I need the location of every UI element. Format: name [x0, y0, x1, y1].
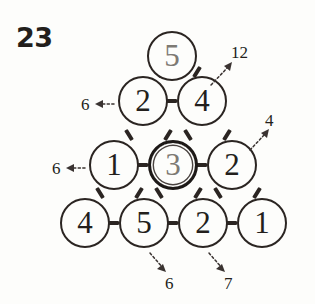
puzzle-figure: 23 5 2 4 1 3 2 4 5	[0, 0, 315, 304]
annotation-sum-7-bottom: 7	[0, 0, 315, 304]
annotation-label: 7	[224, 275, 233, 292]
arrow-down-right-icon	[0, 0, 315, 304]
